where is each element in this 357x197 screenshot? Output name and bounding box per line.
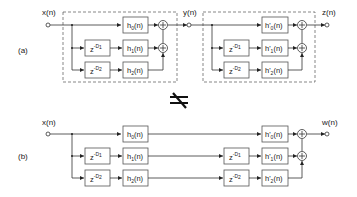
delay-block-d1: z-D1: [224, 148, 249, 164]
filter-h1: h1(n): [123, 40, 148, 56]
svg-text:h'2(n): h'2(n): [265, 66, 283, 76]
panel-b-label: (b): [18, 152, 28, 161]
svg-text:h'1(n): h'1(n): [265, 44, 283, 54]
adder-icon: [298, 44, 307, 53]
panel-a-label: (a): [18, 46, 28, 55]
input-port: [46, 132, 50, 136]
branch-node: [211, 24, 213, 26]
adder-icon: [298, 130, 307, 139]
adder-icon: [298, 21, 307, 30]
filter-h1-prime: h'1(n): [262, 40, 288, 56]
output-label-z: z(n): [322, 8, 336, 17]
delay-block-d2: z-D2: [224, 62, 249, 78]
delay-block-d2: z-D2: [85, 62, 110, 78]
filter-h0-prime: h'0(n): [262, 17, 288, 33]
delay-block-d1: z-D1: [224, 40, 249, 56]
panel-a: (a) x(n) z-D1 z-D2 h0(n) h1(n): [18, 8, 336, 82]
filter-h2-prime: h'2(n): [262, 62, 288, 78]
svg-text:h'0(n): h'0(n): [265, 21, 283, 31]
intermediate-label-y: y(n): [183, 8, 197, 17]
svg-text:h1(n): h1(n): [127, 44, 144, 54]
input-label-x: x(n): [42, 118, 56, 127]
svg-text:h0(n): h0(n): [127, 21, 144, 31]
panel-b: (b) x(n) z-D1 z-D2 h0(n) h1(n) h2(n): [18, 118, 338, 186]
svg-text:h2(n): h2(n): [127, 174, 144, 184]
svg-text:h0(n): h0(n): [127, 130, 144, 140]
filter-h2: h2(n): [123, 170, 148, 186]
output-port: [325, 132, 329, 136]
svg-text:h1(n): h1(n): [127, 152, 144, 162]
input-label-x: x(n): [42, 8, 56, 17]
input-port: [46, 23, 50, 27]
delay-block-d2: z-D2: [224, 170, 249, 186]
filter-h1-prime: h'1(n): [262, 148, 288, 164]
filter-h2: h2(n): [123, 62, 148, 78]
adder-icon: [159, 44, 168, 53]
filter-h0: h0(n): [123, 126, 148, 142]
branch-node: [71, 133, 73, 135]
svg-text:h'0(n): h'0(n): [265, 130, 283, 140]
output-port: [325, 23, 329, 27]
adder-icon: [159, 21, 168, 30]
not-equal-icon: [170, 93, 188, 108]
block-diagram: (a) x(n) z-D1 z-D2 h0(n) h1(n): [0, 0, 357, 197]
filter-h2-prime: h'2(n): [262, 170, 288, 186]
svg-text:h'1(n): h'1(n): [265, 152, 283, 162]
delay-block-d2: z-D2: [85, 170, 110, 186]
svg-text:h2(n): h2(n): [127, 66, 144, 76]
delay-block-d1: z-D1: [85, 148, 110, 164]
delay-block-d1: z-D1: [85, 40, 110, 56]
adder-icon: [298, 152, 307, 161]
filter-h0-prime: h'0(n): [262, 126, 288, 142]
intermediate-port: [187, 23, 191, 27]
branch-node: [71, 24, 73, 26]
svg-text:h'2(n): h'2(n): [265, 174, 283, 184]
output-label-w: w(n): [321, 118, 338, 127]
filter-h1: h1(n): [123, 148, 148, 164]
filter-h0: h0(n): [123, 17, 148, 33]
